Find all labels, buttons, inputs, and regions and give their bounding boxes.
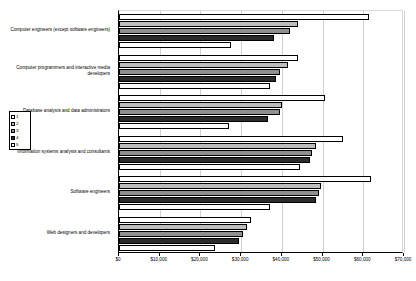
value-axis: $0$10,000$20,000$30,000$40,000$50,000$60… (118, 253, 403, 269)
legend-item-3[interactable]: 3 (11, 127, 29, 134)
axis-tick (403, 253, 404, 256)
legend-label: 2 (16, 122, 18, 126)
bar (119, 176, 371, 182)
bar-group (119, 92, 402, 133)
bar (119, 21, 298, 27)
axis-tick-label: $40,000 (273, 257, 290, 262)
axis-tick-label: $30,000 (232, 257, 249, 262)
category-label: Software engineers (2, 189, 110, 195)
bar (119, 238, 239, 244)
axis-tick (281, 253, 282, 256)
legend-swatch-icon (11, 129, 15, 133)
legend-swatch-icon (11, 136, 15, 140)
legend-swatch-icon (11, 143, 15, 147)
axis-tick (362, 253, 363, 256)
bar-group (119, 11, 402, 52)
bar (119, 183, 321, 189)
axis-tick-label: $60,000 (354, 257, 371, 262)
bar (119, 35, 274, 41)
bar (119, 164, 300, 170)
axis-tick-label: $20,000 (191, 257, 208, 262)
legend-label: 5 (16, 143, 18, 147)
bar-groups (119, 11, 402, 252)
axis-tick (159, 253, 160, 256)
axis-tick (240, 253, 241, 256)
bar (119, 102, 282, 108)
category-label: Computer programmers and interactive med… (2, 65, 110, 77)
axis-tick-label: $10,000 (150, 257, 167, 262)
category-label: Web designers and developers (2, 230, 110, 236)
bar (119, 217, 251, 223)
legend-item-4[interactable]: 4 (11, 134, 29, 141)
bar (119, 231, 243, 237)
legend-swatch-icon (11, 115, 15, 119)
bar-group (119, 214, 402, 255)
chart-legend: 12345 (9, 111, 31, 150)
bar (119, 83, 270, 89)
legend-label: 4 (16, 136, 18, 140)
axis-tick-label: $70,000 (395, 257, 412, 262)
axis-tick (322, 253, 323, 256)
legend-item-2[interactable]: 2 (11, 120, 29, 127)
bar (119, 55, 298, 61)
bar (119, 95, 325, 101)
legend-label: 3 (16, 129, 18, 133)
bar-group (119, 173, 402, 214)
plot-area (118, 10, 403, 253)
bar (119, 42, 231, 48)
axis-tick-label: $50,000 (313, 257, 330, 262)
bar (119, 204, 270, 210)
axis-tick (118, 253, 119, 256)
bar (119, 62, 288, 68)
bar-group (119, 52, 402, 93)
bar (119, 136, 343, 142)
bar (119, 28, 290, 34)
axis-tick (199, 253, 200, 256)
bar (119, 116, 268, 122)
legend-label: 1 (16, 115, 18, 119)
legend-swatch-icon (11, 122, 15, 126)
legend-item-5[interactable]: 5 (11, 141, 29, 148)
bar (119, 143, 316, 149)
bar (119, 14, 369, 20)
bar-group (119, 133, 402, 174)
axis-tick-label: $0 (115, 257, 120, 262)
gridline (404, 11, 405, 252)
bar (119, 197, 316, 203)
bar (119, 150, 312, 156)
bar (119, 123, 229, 129)
bar (119, 224, 247, 230)
category-label: Computer engineers (except software engi… (2, 27, 110, 33)
bar (119, 109, 280, 115)
bar (119, 190, 319, 196)
bar-chart: Computer engineers (except software engi… (0, 0, 416, 281)
bar (119, 76, 276, 82)
bar (119, 245, 215, 251)
bar (119, 69, 280, 75)
bar (119, 157, 310, 163)
legend-item-1[interactable]: 1 (11, 113, 29, 120)
